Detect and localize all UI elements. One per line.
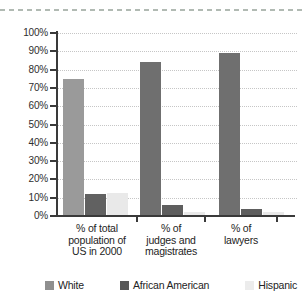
bar-white-group2	[140, 62, 161, 216]
x-axis-line	[56, 215, 295, 217]
y-tick-0	[50, 215, 56, 217]
y-tick-90	[50, 50, 56, 52]
gridline-60	[57, 106, 297, 107]
bar-white-group3	[219, 53, 240, 216]
y-tick-label-30: 30%	[10, 156, 48, 166]
gridline-40	[57, 143, 297, 144]
y-tick-100	[50, 32, 56, 34]
gridline-70	[57, 88, 297, 89]
gridline-100	[57, 33, 297, 34]
y-tick-label-60: 60%	[10, 101, 48, 111]
gridline-80	[57, 70, 297, 71]
gridline-20	[57, 179, 297, 180]
y-axis-line	[56, 31, 58, 217]
y-tick-70	[50, 87, 56, 89]
category-label-3: % oflawyers	[196, 223, 286, 246]
x-divider-tick-2	[204, 217, 206, 222]
y-tick-label-100: 100%	[10, 28, 48, 38]
bar-chart-plot-area: 0%10%20%30%40%50%60%70%80%90%100%% of to…	[0, 0, 303, 307]
legend-item-white: White	[45, 279, 84, 291]
y-tick-label-40: 40%	[10, 138, 48, 148]
y-tick-label-50: 50%	[10, 120, 48, 130]
y-tick-30	[50, 160, 56, 162]
legend-item-african-american: African American	[120, 279, 209, 291]
x-divider-tick-1	[136, 217, 138, 222]
y-tick-80	[50, 69, 56, 71]
bar-african-american-group1	[85, 194, 106, 216]
bar-white-group1	[63, 79, 84, 216]
y-tick-50	[50, 124, 56, 126]
x-divider-tick-3	[276, 217, 278, 222]
y-tick-label-20: 20%	[10, 174, 48, 184]
y-tick-label-70: 70%	[10, 83, 48, 93]
legend-swatch-icon	[245, 281, 254, 290]
chart-legend: WhiteAfrican AmericanHispanic	[45, 279, 297, 291]
legend-label: African American	[133, 279, 209, 291]
legend-swatch-icon	[120, 281, 129, 290]
y-tick-60	[50, 105, 56, 107]
y-tick-label-80: 80%	[10, 65, 48, 75]
y-tick-10	[50, 197, 56, 199]
y-tick-20	[50, 178, 56, 180]
gridline-90	[57, 51, 297, 52]
legend-swatch-icon	[45, 281, 54, 290]
y-tick-40	[50, 142, 56, 144]
y-tick-label-10: 10%	[10, 193, 48, 203]
y-tick-label-90: 90%	[10, 46, 48, 56]
legend-label: White	[58, 279, 84, 291]
bar-hispanic-group1	[107, 193, 128, 216]
legend-item-hispanic: Hispanic	[245, 279, 297, 291]
scanned-chart-page: 0%10%20%30%40%50%60%70%80%90%100%% of to…	[0, 0, 303, 307]
legend-label: Hispanic	[258, 279, 297, 291]
gridline-50	[57, 125, 297, 126]
category-label-line: magistrates	[126, 246, 216, 258]
category-label-line: % of	[196, 223, 286, 235]
category-label-line: lawyers	[196, 235, 286, 247]
y-tick-label-0: 0%	[10, 211, 48, 221]
gridline-30	[57, 161, 297, 162]
